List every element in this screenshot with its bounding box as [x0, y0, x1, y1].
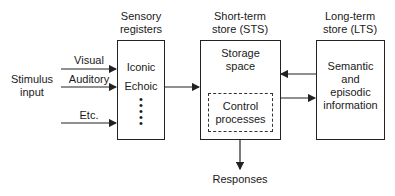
sensory-title: Sensory registers — [108, 10, 174, 36]
lts-line-semantic: Semantic — [316, 60, 385, 73]
storage-line1: Storage — [200, 47, 281, 60]
sts-title: Short-term store (STS) — [196, 10, 284, 36]
lts-title-line2: store (LTS) — [310, 23, 390, 36]
responses-label: Responses — [206, 173, 274, 186]
stimulus-label-line2: input — [6, 86, 58, 99]
control-line1: Control — [208, 100, 273, 113]
sensory-title-line1: Sensory — [108, 10, 174, 23]
input-label-etc: Etc. — [62, 109, 116, 122]
sts-title-line1: Short-term — [196, 10, 284, 23]
storage-line2: space — [200, 60, 281, 73]
storage-space-label: Storage space — [200, 47, 281, 73]
input-label-auditory: Auditory — [60, 73, 118, 86]
sts-title-line2: store (STS) — [196, 23, 284, 36]
input-label-visual: Visual — [62, 54, 116, 67]
stimulus-input-label: Stimulus input — [6, 73, 58, 99]
stimulus-label-line1: Stimulus — [6, 73, 58, 86]
lts-line-and: and — [316, 73, 385, 86]
lts-content-label: Semantic and episodic information — [316, 60, 385, 112]
control-processes-label: Control processes — [208, 100, 273, 126]
control-line2: processes — [208, 113, 273, 126]
lts-title-line1: Long-term — [310, 10, 390, 23]
echoic-label: Echoic — [117, 80, 165, 93]
iconic-label: Iconic — [117, 61, 165, 74]
lts-line-information: information — [316, 99, 385, 112]
lts-title: Long-term store (LTS) — [310, 10, 390, 36]
ellipsis-dots: ••••• — [117, 96, 165, 126]
lts-line-episodic: episodic — [316, 86, 385, 99]
sensory-title-line2: registers — [108, 23, 174, 36]
